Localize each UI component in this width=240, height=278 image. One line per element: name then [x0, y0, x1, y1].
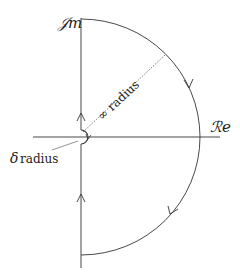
delta-symbol: δ	[10, 150, 18, 166]
nyquist-contour-diagram: 𝒥m ℛe ∞ radius δ radius	[0, 0, 240, 278]
infinity-radius-label: ∞ radius	[94, 77, 142, 123]
delta-radius-leader	[52, 141, 78, 150]
real-axis-label: ℛe	[210, 118, 231, 136]
delta-radius-label: radius	[20, 152, 58, 166]
imaginary-axis-label: 𝒥m	[57, 14, 82, 32]
